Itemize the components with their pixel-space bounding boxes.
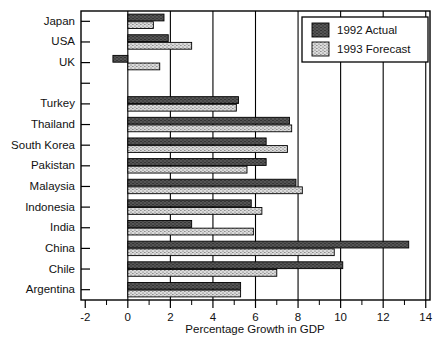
category-label-usa: USA <box>51 35 75 47</box>
category-label-india: India <box>50 221 76 233</box>
chart-legend: 1992 Actual 1993 Forecast <box>302 17 428 62</box>
bar-indonesia-actual <box>128 200 251 207</box>
category-label-chile: Chile <box>49 263 75 275</box>
x-tick-label: 4 <box>210 311 217 323</box>
bar-thailand-forecast <box>128 125 292 132</box>
category-label-malaysia: Malaysia <box>30 180 76 192</box>
x-tick-label: 0 <box>125 311 131 323</box>
bar-malaysia-actual <box>128 179 296 186</box>
x-tick-label: 14 <box>419 311 432 323</box>
x-tick-label: 12 <box>377 311 390 323</box>
bar-chile-actual <box>128 262 343 269</box>
bar-indonesia-forecast <box>128 208 262 215</box>
legend-swatch-1992-actual <box>312 23 329 37</box>
bar-south-korea-actual <box>128 138 266 145</box>
x-tick-label: 2 <box>167 311 173 323</box>
x-axis-title: Percentage Growth in GDP <box>185 323 325 335</box>
category-labels: JapanUSAUKTurkeyThailandSouth KoreaPakis… <box>11 15 76 295</box>
gdp-growth-bar-chart: JapanUSAUKTurkeyThailandSouth KoreaPakis… <box>0 0 444 341</box>
bar-usa-actual <box>128 35 168 42</box>
bar-japan-forecast <box>128 22 154 29</box>
bar-turkey-actual <box>128 97 239 104</box>
bar-turkey-forecast <box>128 104 237 111</box>
legend-label-1993-forecast: 1993 Forecast <box>337 43 411 55</box>
bar-thailand-actual <box>128 117 290 124</box>
bar-usa-forecast <box>128 42 192 49</box>
bar-uk-actual <box>113 55 128 62</box>
x-axis-ticks <box>85 300 425 308</box>
bar-malaysia-forecast <box>128 187 303 194</box>
category-label-indonesia: Indonesia <box>25 201 75 213</box>
chart-canvas: JapanUSAUKTurkeyThailandSouth KoreaPakis… <box>0 0 444 341</box>
category-label-pakistan: Pakistan <box>31 159 75 171</box>
x-axis-tick-labels: -202468101214 <box>80 311 433 323</box>
bar-china-forecast <box>128 249 334 256</box>
x-tick-label: 8 <box>295 311 301 323</box>
category-label-japan: Japan <box>44 15 75 27</box>
x-tick-label: 10 <box>334 311 347 323</box>
category-label-turkey: Turkey <box>40 97 75 109</box>
category-label-south-korea: South Korea <box>11 139 76 151</box>
category-label-argentina: Argentina <box>26 283 76 295</box>
bar-chile-forecast <box>128 269 277 276</box>
bar-argentina-actual <box>128 282 241 289</box>
legend-swatch-1993-forecast <box>312 42 329 56</box>
bar-japan-actual <box>128 14 164 21</box>
x-tick-label: -2 <box>80 311 90 323</box>
bar-india-forecast <box>128 228 254 235</box>
category-label-uk: UK <box>59 56 75 68</box>
bar-pakistan-forecast <box>128 166 247 173</box>
bar-argentina-forecast <box>128 290 241 297</box>
bar-india-actual <box>128 221 192 228</box>
category-label-china: China <box>45 242 76 254</box>
x-tick-label: 6 <box>252 311 258 323</box>
category-label-thailand: Thailand <box>31 118 75 130</box>
bar-pakistan-actual <box>128 159 266 166</box>
legend-label-1992-actual: 1992 Actual <box>337 24 397 36</box>
bar-south-korea-forecast <box>128 146 288 153</box>
bar-china-actual <box>128 241 409 248</box>
bar-uk-forecast <box>128 63 160 70</box>
